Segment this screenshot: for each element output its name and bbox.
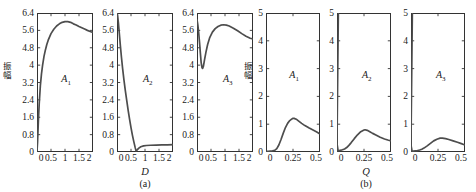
curve-annotation-b-A1: A1 [289,69,299,83]
curve-annotation-a-A3: A3 [223,73,233,87]
y-tick-label: 0 [29,147,37,157]
y-tick-label: 2.4 [102,95,117,105]
plot-panel-b-A2: A2 01234500.250.5 [337,13,391,152]
x-tick-label: 0.5 [45,152,57,163]
y-tick-label: 5 [329,8,337,18]
x-tick-label: 0 [413,152,418,163]
y-tick-label: 3 [403,64,411,74]
y-tick-label: 4.8 [182,43,197,53]
y-tick-label: 0.8 [22,130,37,140]
x-tick-label: 1 [223,152,228,163]
x-tick-label: 0.5 [125,152,137,163]
y-tick-label: 5.6 [102,25,117,35]
x-tick-label: 0 [39,152,44,163]
plot-panel-b-A1: A1 01234500.250.5 [266,13,320,152]
y-tick-label: 2.4 [182,95,197,105]
x-tick-label: 2 [167,152,172,163]
plot-panel-a-A2: A2 00.81.62.43.244.85.66.400.511.52 [117,13,173,152]
x-tick-label: 1 [143,152,148,163]
curve-annotation-b-A3: A3 [436,69,446,83]
y-tick-label: 3 [258,64,266,74]
y-tick-label: 5.6 [182,25,197,35]
subfigure-caption-a: (a) [139,178,150,189]
x-tick-label: 0 [199,152,204,163]
x-tick-label: 0.5 [455,152,467,163]
plot-panel-b-A3: A3 01234500.250.5 [411,13,465,152]
plot-panel-a-A1: A1 00.81.62.43.244.85.66.400.511.52 [37,13,93,152]
x-tick-label: 2 [247,152,252,163]
x-tick-label: 0.5 [381,152,393,163]
figure-root: 振幅 A1 00.81.62.43.244.85.66.400.511.52 A… [0,0,476,192]
x-tick-label: 0.25 [430,152,447,163]
x-tick-label: 2 [87,152,92,163]
x-tick-label: 0 [268,152,273,163]
y-tick-label: 5 [258,8,266,18]
y-tick-label: 1 [329,119,337,129]
y-tick-label: 1.6 [22,112,37,122]
y-tick-label: 1.6 [182,112,197,122]
y-tick-label: 4 [189,60,197,70]
x-tick-label: 1.5 [233,152,245,163]
y-tick-label: 2 [403,91,411,101]
y-tick-label: 1 [403,119,411,129]
y-tick-label: 0 [258,147,266,157]
y-tick-label: 5 [403,8,411,18]
y-tick-label: 3.2 [182,78,197,88]
y-tick-label: 4 [329,36,337,46]
y-tick-label: 0.8 [182,130,197,140]
y-tick-label: 4 [109,60,117,70]
y-tick-label: 4 [403,36,411,46]
y-tick-label: 4.8 [102,43,117,53]
x-tick-label: 0.25 [285,152,302,163]
x-tick-label: 0 [339,152,344,163]
y-tick-label: 3.2 [22,78,37,88]
y-tick-label: 6.4 [22,8,37,18]
y-tick-label: 4 [29,60,37,70]
y-tick-label: 2 [258,91,266,101]
x-tick-label: 1.5 [153,152,165,163]
curve-annotation-a-A1: A1 [61,73,71,87]
y-tick-label: 0 [109,147,117,157]
curve-annotation-b-A2: A2 [362,69,372,83]
y-tick-label: 1.6 [102,112,117,122]
y-tick-label: 6.4 [182,8,197,18]
y-tick-label: 0.8 [102,130,117,140]
x-tick-label: 1 [63,152,68,163]
x-tick-label: 0 [119,152,124,163]
x-tick-label: 0.5 [310,152,322,163]
y-tick-label: 3 [329,64,337,74]
y-tick-label: 2.4 [22,95,37,105]
x-axis-label-b: Q [362,166,370,177]
y-tick-label: 3.2 [102,78,117,88]
x-tick-label: 0.25 [356,152,373,163]
y-tick-label: 4 [258,36,266,46]
y-tick-label: 2 [329,91,337,101]
y-tick-label: 6.4 [102,8,117,18]
x-tick-label: 1.5 [73,152,85,163]
y-tick-label: 0 [403,147,411,157]
y-tick-label: 1 [258,119,266,129]
x-tick-label: 0.5 [205,152,217,163]
y-axis-label-a: 振幅 [2,62,13,80]
subfigure-caption-b: (b) [360,178,372,189]
curve-annotation-a-A2: A2 [143,73,153,87]
y-tick-label: 0 [329,147,337,157]
y-tick-label: 5.6 [22,25,37,35]
y-tick-label: 0 [189,147,197,157]
plot-panel-a-A3: A3 00.81.62.43.244.85.66.400.511.52 [197,13,253,152]
x-axis-label-a: D [141,166,149,177]
y-axis-label-b: 振幅 [243,62,254,80]
y-tick-label: 4.8 [22,43,37,53]
